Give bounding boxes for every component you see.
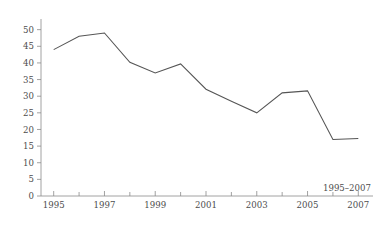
x-axis: 1995199719992001200320052007 <box>41 191 373 210</box>
x-tick-label: 2001 <box>195 200 217 210</box>
y-tick-label: 20 <box>23 125 34 135</box>
line-chart: 05101520253035404550 1995199719992001200… <box>0 0 385 234</box>
y-tick-label: 0 <box>29 191 34 201</box>
x-tick-label: 2003 <box>246 200 268 210</box>
y-tick-label: 35 <box>23 75 34 85</box>
x-tick-label: 2007 <box>347 200 369 210</box>
y-tick-label: 15 <box>23 141 34 151</box>
y-tick-label: 50 <box>23 25 34 35</box>
x-tick-label: 1999 <box>144 200 166 210</box>
x-tick-label: 2005 <box>297 200 319 210</box>
y-tick-label: 5 <box>29 174 34 184</box>
x-tick-label: 1997 <box>94 200 116 210</box>
y-tick-label: 25 <box>23 108 34 118</box>
y-tick-label: 10 <box>23 158 34 168</box>
range-annotation: 1995–2007 <box>323 183 371 193</box>
y-tick-label: 30 <box>23 91 34 101</box>
y-axis: 05101520253035404550 <box>23 19 41 201</box>
chart-canvas: 05101520253035404550 1995199719992001200… <box>0 0 385 234</box>
data-series <box>54 33 359 139</box>
y-tick-label: 40 <box>23 58 34 68</box>
y-tick-label: 45 <box>23 41 34 51</box>
series-line <box>54 33 359 139</box>
x-tick-label: 1995 <box>43 200 65 210</box>
